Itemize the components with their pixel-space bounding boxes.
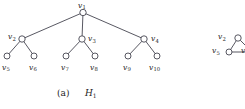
vertex-label-v1: v1 — [78, 2, 86, 10]
tree-edge-v2-v5 — [9, 42, 20, 54]
vertex-label-v7: v7 — [61, 64, 69, 72]
vertex-label-sub-v8: 8 — [94, 66, 97, 72]
tree-edge-v4-v10 — [146, 42, 155, 54]
vertex-v7 — [63, 53, 69, 59]
tree-graph-svg — [0, 0, 245, 109]
partial-vertex-label-p_v: v — [241, 47, 245, 55]
vertex-label-v8: v8 — [90, 64, 98, 72]
caption-name-base: H — [85, 88, 93, 98]
vertex-v9 — [125, 53, 131, 59]
vertex-v3 — [79, 36, 85, 42]
vertex-label-sub-v4: 4 — [155, 38, 158, 44]
tree-edge-v1-v3 — [82, 16, 83, 36]
tree-edge-v1-v2 — [25, 14, 80, 38]
vertex-v10 — [154, 53, 160, 59]
partial-vertex-p_v5 — [226, 49, 232, 55]
figure-caption-label: (a) — [57, 89, 69, 98]
partial-vertex-p_v2 — [235, 35, 241, 41]
tree-edge-v4-v9 — [130, 41, 141, 53]
vertex-label-sub-v5: 5 — [6, 66, 9, 72]
vertex-label-sub-v3: 3 — [92, 38, 95, 44]
vertex-label-sub-v1: 1 — [82, 4, 85, 10]
vertex-label-v3: v3 — [88, 35, 96, 43]
partial-vertex-label-sub-p_v5: 5 — [216, 50, 219, 56]
figure-container: v1v2v3v4v5v6v7v8v9v10v2v5v (a) H1 — [0, 0, 245, 109]
vertex-label-v9: v9 — [123, 64, 131, 72]
partial-vertex-label-p_v2: v2 — [218, 33, 226, 41]
vertex-label-v2: v2 — [8, 33, 16, 41]
vertex-v2 — [19, 36, 25, 42]
vertex-label-sub-v7: 7 — [65, 66, 68, 72]
vertex-label-sub-v9: 9 — [127, 66, 130, 72]
vertex-v4 — [141, 36, 147, 42]
vertex-v1 — [80, 9, 86, 15]
partial-edge-p_v2-p_v5 — [231, 41, 236, 49]
partial-vertex-label-base-p_v: v — [241, 46, 245, 55]
edge-layer — [9, 14, 155, 54]
vertex-v6 — [31, 53, 37, 59]
vertex-v8 — [92, 53, 98, 59]
figure-caption-name: H1 — [85, 89, 97, 98]
vertex-label-v4: v4 — [151, 35, 159, 43]
caption-name-subscript: 1 — [93, 92, 97, 99]
partial-vertex-label-sub-p_v2: 2 — [222, 36, 225, 42]
vertex-label-sub-v6: 6 — [33, 66, 36, 72]
tree-edge-v3-v7 — [68, 41, 79, 53]
vertex-label-v6: v6 — [29, 64, 37, 72]
vertex-label-sub-v2: 2 — [12, 36, 15, 42]
vertex-v5 — [4, 53, 10, 59]
vertex-label-sub-v10: 10 — [153, 66, 160, 72]
vertex-label-v5: v5 — [2, 64, 10, 72]
tree-edge-v2-v6 — [24, 42, 32, 54]
vertex-label-v10: v10 — [149, 64, 160, 72]
partial-vertex-label-p_v5: v5 — [212, 47, 220, 55]
